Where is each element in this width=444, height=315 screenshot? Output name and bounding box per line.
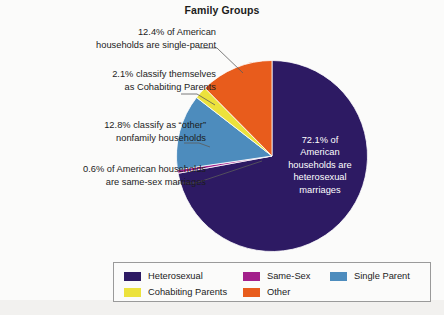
- legend-swatch-other: [243, 288, 260, 297]
- callout-other-nonfamily: 12.8% classify as “other” nonfamily hous…: [10, 119, 206, 144]
- legend-swatch-cohabiting-parents: [124, 288, 141, 297]
- legend-item-heterosexual[interactable]: Heterosexual: [124, 269, 203, 283]
- legend-item-cohabiting-parents[interactable]: Cohabiting Parents: [124, 285, 227, 299]
- page-title: Family Groups: [0, 4, 444, 16]
- legend-item-single-parent[interactable]: Single Parent: [330, 269, 410, 283]
- legend-item-same-sex[interactable]: Same-Sex: [243, 269, 310, 283]
- legend-swatch-single-parent: [330, 272, 347, 281]
- slice-label-heterosexual: 72.1% of American households are heteros…: [272, 134, 368, 196]
- legend-swatch-heterosexual: [124, 272, 141, 281]
- legend-label-cohabiting-parents: Cohabiting Parents: [148, 287, 227, 297]
- legend-item-other[interactable]: Other: [243, 285, 290, 299]
- legend-label-other: Other: [267, 287, 290, 297]
- legend-grid: HeterosexualSame-SexSingle ParentCohabit…: [114, 263, 430, 301]
- legend-label-same-sex: Same-Sex: [267, 271, 310, 281]
- legend-swatch-same-sex: [243, 272, 260, 281]
- callout-same-sex: 0.6% of American households are same-sex…: [2, 163, 206, 188]
- legend: HeterosexualSame-SexSingle ParentCohabit…: [113, 262, 431, 302]
- callout-single-parent: 12.4% of American households are single-…: [34, 26, 216, 51]
- legend-label-heterosexual: Heterosexual: [148, 271, 203, 281]
- legend-label-single-parent: Single Parent: [354, 271, 410, 281]
- chart-canvas: Family Groups 72.1% of American househol…: [0, 0, 444, 315]
- callout-cohabiting-parents: 2.1% classify themselves as Cohabiting P…: [14, 68, 216, 93]
